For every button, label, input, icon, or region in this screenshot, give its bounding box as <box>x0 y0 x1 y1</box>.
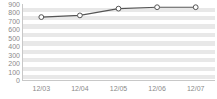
line-chart-widget: 9008007006005004003002001000 12/0312/041… <box>0 0 217 99</box>
data-point-marker <box>39 15 44 20</box>
y-axis-tick-label: 600 <box>8 26 20 33</box>
x-axis-tick-label: 12/07 <box>187 84 205 93</box>
x-axis-tick-label: 12/05 <box>110 84 128 93</box>
y-axis-tick-label: 900 <box>8 1 20 8</box>
x-axis-tick-label: 12/03 <box>33 84 51 93</box>
plot-area <box>22 4 215 80</box>
y-axis-tick-label: 400 <box>8 43 20 50</box>
series-plot <box>22 4 215 80</box>
x-axis: 12/0312/0412/0512/0612/07 <box>22 84 215 96</box>
x-axis-line <box>22 80 215 81</box>
y-axis-tick-label: 500 <box>8 34 20 41</box>
y-axis-tick-label: 200 <box>8 60 20 67</box>
y-axis-line <box>22 4 23 81</box>
x-axis-tick-label: 12/04 <box>71 84 89 93</box>
y-axis-tick-label: 700 <box>8 17 20 24</box>
data-point-marker <box>78 13 83 18</box>
y-axis-tick-label: 0 <box>16 77 20 84</box>
y-axis-tick-label: 300 <box>8 51 20 58</box>
data-point-marker <box>193 5 198 10</box>
x-axis-tick-label: 12/06 <box>148 84 166 93</box>
y-axis-tick-label: 100 <box>8 68 20 75</box>
y-axis: 9008007006005004003002001000 <box>0 0 22 99</box>
data-point-marker <box>155 5 160 10</box>
data-point-marker <box>116 6 121 11</box>
y-axis-tick-label: 800 <box>8 9 20 16</box>
